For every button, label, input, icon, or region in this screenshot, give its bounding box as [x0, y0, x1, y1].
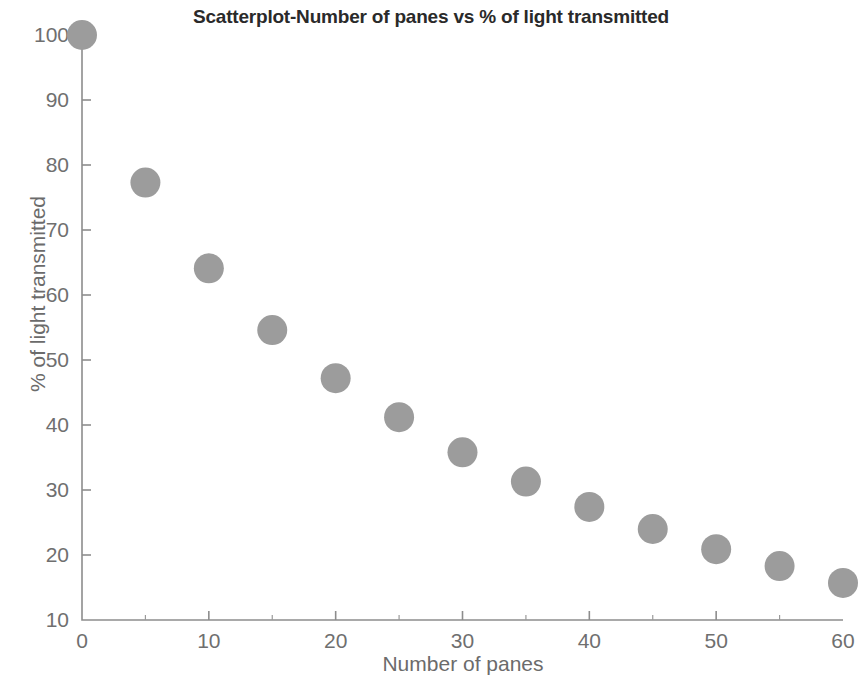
axes: [82, 35, 843, 620]
y-tick-label: 10: [46, 608, 69, 631]
data-points: [67, 20, 858, 598]
scatter-plot-area: 102030405060708090100 0102030405060: [0, 0, 862, 690]
data-point: [828, 568, 858, 598]
data-point: [384, 402, 414, 432]
x-tick-label: 20: [324, 629, 347, 652]
data-point: [67, 20, 97, 50]
x-tick-label: 40: [578, 629, 601, 652]
data-point: [194, 253, 224, 283]
y-tick-label: 30: [46, 478, 69, 501]
x-axis-label: Number of panes: [82, 652, 844, 676]
x-tick-label: 10: [197, 629, 220, 652]
data-point: [638, 514, 668, 544]
y-tick-label: 90: [46, 88, 69, 111]
y-tick-label: 20: [46, 543, 69, 566]
data-point: [448, 437, 478, 467]
y-axis-label: % of light transmitted: [26, 164, 50, 424]
data-point: [574, 492, 604, 522]
data-point: [511, 467, 541, 497]
x-tick-label: 60: [831, 629, 854, 652]
x-tick-label: 30: [451, 629, 474, 652]
data-point: [321, 363, 351, 393]
data-point: [701, 534, 731, 564]
y-tick-label: 100: [34, 23, 69, 46]
data-point: [765, 551, 795, 581]
x-tick-label: 0: [76, 629, 88, 652]
x-tick-label: 50: [704, 629, 727, 652]
data-point: [257, 315, 287, 345]
axis-lines: [82, 35, 843, 620]
chart-figure: Scatterplot-Number of panes vs % of ligh…: [0, 0, 862, 690]
data-point: [130, 168, 160, 198]
x-axis-ticks: 0102030405060: [76, 611, 855, 652]
